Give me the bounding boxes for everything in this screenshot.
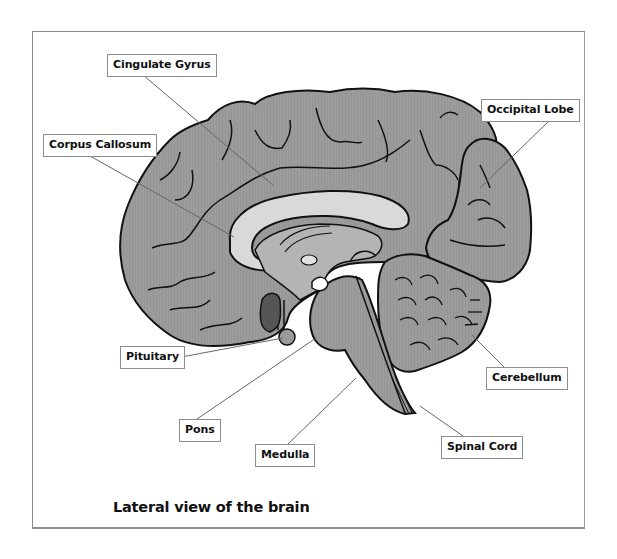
label-corpus-callosum: Corpus Callosum [43,134,157,157]
label-occipital-lobe: Occipital Lobe [481,99,580,122]
brain-illustration [0,0,617,559]
label-pons: Pons [179,419,221,442]
label-pituitary: Pituitary [120,346,185,369]
label-cerebellum: Cerebellum [486,367,568,390]
pituitary-shape [279,329,295,345]
diagram-caption: Lateral view of the brain [113,499,310,515]
label-spinal-cord: Spinal Cord [441,436,523,459]
label-cingulate-gyrus: Cingulate Gyrus [107,54,217,77]
optic-shape [260,293,280,332]
label-medulla: Medulla [255,444,315,467]
